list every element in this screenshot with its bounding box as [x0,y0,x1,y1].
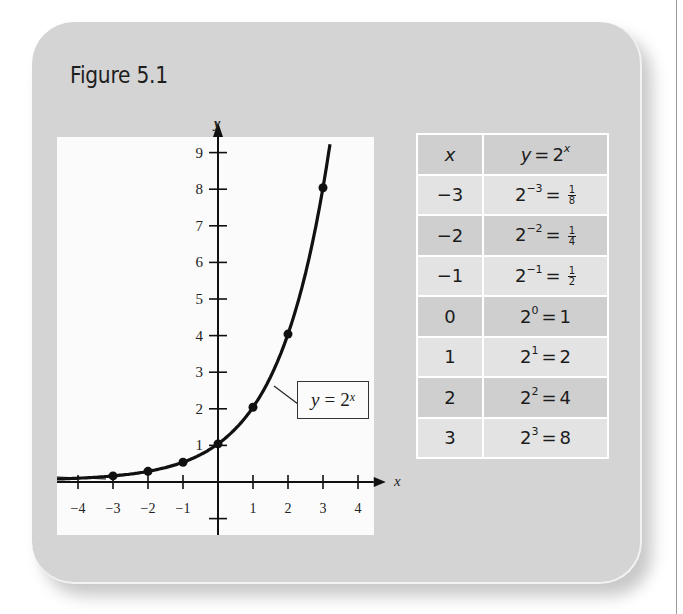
y-axis-label: y [212,116,221,131]
cell-value: 1 [560,306,571,327]
data-point [249,403,258,412]
cell-fraction: 14 [568,226,576,247]
y-tick-label: 8 [196,181,204,197]
curve-label-equals: = [324,389,335,411]
cell-base: 2 [520,306,531,327]
fraction-denominator: 8 [569,196,575,206]
cell-exponent: 1 [531,344,538,357]
cell-x: −2 [417,215,483,256]
y-tick-label: 3 [196,364,204,380]
cell-x: 0 [417,296,483,337]
y-tick-label: 5 [196,291,204,307]
cell-base: 2 [520,346,531,367]
fraction-denominator: 4 [569,237,575,247]
x-tick-label: 4 [355,501,362,516]
header-y-base: 2 [552,144,563,165]
cell-x: −1 [417,256,483,297]
data-point [214,439,223,448]
curve-label-lhs: y [311,389,319,411]
cell-exponent: 3 [531,425,538,438]
x-axis-label: x [393,473,401,489]
cell-y: 2−2=14 [483,215,608,256]
curve-label-leader-line [274,386,298,404]
cell-value: 4 [560,387,571,408]
y-tick-label: 7 [196,218,204,234]
cell-x: −3 [417,175,483,216]
cell-exponent: −3 [526,182,542,195]
y-tick-label: 4 [196,328,204,344]
cell-x: 1 [417,337,483,378]
table-row: −12−1=12 [417,256,608,297]
x-tick-label: −2 [141,501,156,516]
cell-base: 2 [515,265,526,286]
data-point [144,467,153,476]
header-y: y=2x [483,134,608,175]
x-tick-label: 3 [320,501,327,516]
table-row: 323=8 [417,418,608,459]
header-y-lhs: y [521,144,532,165]
x-tick-label: 1 [250,501,257,516]
table-row: −32−3=18 [417,175,608,216]
data-point [284,330,293,339]
axis-tick-labels: −4−3−2−11234123456789 [71,145,362,516]
table-row: 222=4 [417,377,608,418]
cell-equals: = [541,306,556,327]
header-y-exp: x [564,142,571,155]
cell-fraction: 18 [568,185,576,206]
cell-y: 21=2 [483,337,608,378]
table-row: −22−2=14 [417,215,608,256]
header-x: x [417,134,483,175]
y-tick-label: 1 [196,437,204,453]
x-tick-label: −1 [176,501,191,516]
x-tick-label: −4 [71,501,86,516]
cell-x: 2 [417,377,483,418]
data-point [179,458,188,467]
x-tick-label: 2 [285,501,292,516]
cell-base: 2 [515,184,526,205]
cell-base: 2 [520,427,531,448]
cell-exponent: −1 [526,263,542,276]
axes [57,122,386,535]
data-point [109,471,118,480]
cell-y: 20=1 [483,296,608,337]
cell-equals: = [546,224,561,245]
cell-y: 2−1=12 [483,256,608,297]
cell-value: 8 [560,427,571,448]
cell-y: 23=8 [483,418,608,459]
data-point [319,183,328,192]
y-tick-label: 6 [196,254,204,270]
fraction-denominator: 2 [569,277,575,287]
table-row: 121=2 [417,337,608,378]
cell-y: 22=4 [483,377,608,418]
table-row: 020=1 [417,296,608,337]
y-tick-label: 9 [196,145,204,161]
values-table: x y=2x −32−3=18−22−2=14−12−1=12020=1121=… [416,133,609,459]
curve-label-exponent: x [350,390,355,405]
cell-fraction: 12 [568,266,576,287]
cell-base: 2 [520,387,531,408]
cell-y: 2−3=18 [483,175,608,216]
x-axis-arrow-icon [374,477,386,487]
cell-equals: = [541,427,556,448]
cell-value: 2 [560,346,571,367]
header-y-equals: = [534,144,549,165]
table-header-row: x y=2x [417,134,608,175]
fraction-numerator: 1 [568,226,576,237]
x-tick-label: −3 [106,501,121,516]
cell-x: 3 [417,418,483,459]
cell-exponent: −2 [526,222,542,235]
cell-equals: = [541,387,556,408]
cell-equals: = [546,265,561,286]
y-tick-label: 2 [196,401,204,417]
cell-exponent: 2 [531,385,538,398]
curve-label-base: 2 [340,389,350,411]
table-body: −32−3=18−22−2=14−12−1=12020=1121=2222=43… [417,175,608,459]
cell-equals: = [546,184,561,205]
cell-equals: = [541,346,556,367]
cell-exponent: 0 [531,304,538,317]
curve-y-equals-2-to-x [57,144,330,479]
cell-base: 2 [515,224,526,245]
curve-label-box: y = 2x [297,381,369,419]
